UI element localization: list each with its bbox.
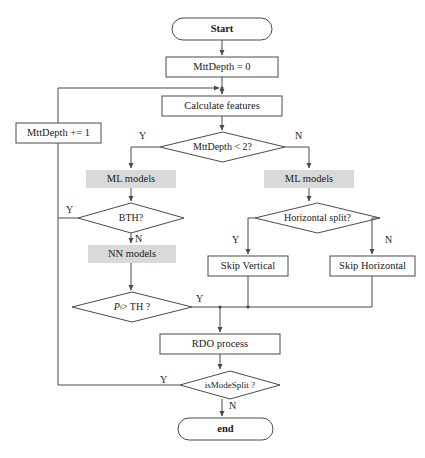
- node-calculate-features-shape: [162, 96, 282, 116]
- junction-dot-skip-vertical-merge: [246, 305, 249, 308]
- node-mttdepth-increment-shape: [16, 123, 101, 143]
- edge-mttdepth-yes-to-ml-left: [131, 147, 160, 168]
- node-start-shape: [172, 18, 272, 40]
- flowchart-vector-layer: [0, 0, 425, 458]
- node-end-shape: [178, 418, 273, 440]
- node-mttdepth-lt2-shape: [160, 132, 285, 162]
- node-rdo-process-shape: [160, 334, 280, 354]
- node-mttdepth0-shape: [166, 57, 278, 77]
- node-pi-gt-th-shape: [72, 292, 192, 322]
- junction-dot-rdo-inlet: [218, 305, 221, 308]
- node-skip-horizontal-shape: [330, 256, 415, 276]
- edge-mttdepth-no-to-ml-right: [285, 147, 309, 168]
- node-horizontal-split-shape: [255, 203, 380, 233]
- flowchart-canvas: Start MttDepth = 0 Calculate features Mt…: [0, 0, 425, 458]
- edge-hsplit-no-to-skip-horizontal: [372, 218, 380, 254]
- junction-dot-calculate-inlet: [220, 86, 223, 89]
- node-ismodesplit-shape: [180, 371, 280, 399]
- node-bth-shape: [78, 203, 184, 233]
- node-skip-vertical-shape: [208, 256, 288, 276]
- edge-hsplit-yes-to-skip-vertical: [248, 218, 255, 254]
